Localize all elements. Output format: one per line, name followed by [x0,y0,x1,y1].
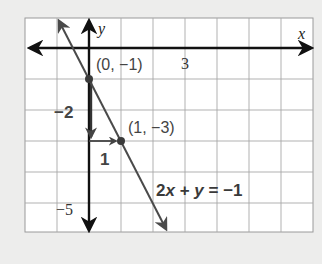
rise-label: −2 [54,103,73,122]
point-0-neg1 [85,75,93,83]
chart-figure: y x 3 −5 (0, −1) (1, −3) −2 1 2x + y = −… [0,0,322,264]
point-label-1-neg3: (1, −3) [128,119,175,136]
point-1-neg3 [117,137,125,145]
equation-label: 2x + y = −1 [156,181,243,200]
x-axis-label: x [297,25,305,42]
coordinate-plane: y x 3 −5 (0, −1) (1, −3) −2 1 2x + y = −… [0,0,322,264]
x-tick-label-3: 3 [181,55,189,72]
run-label: 1 [100,150,109,169]
y-tick-label-neg5: −5 [56,201,73,218]
point-label-0-neg1: (0, −1) [96,56,143,73]
y-axis-label: y [96,20,106,38]
